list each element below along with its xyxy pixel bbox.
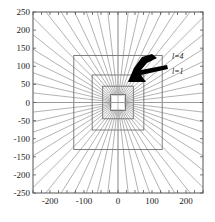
annotation-l4: l=4 (172, 52, 184, 61)
x-tick-label: 0 (116, 196, 121, 206)
chart-canvas: -200-1000100200-250-200-150-100-50050100… (0, 0, 215, 222)
y-tick-label: 50 (21, 79, 31, 89)
y-tick-label: -250 (14, 188, 31, 198)
y-tick-label: 200 (17, 25, 31, 35)
y-tick-label: -100 (14, 134, 31, 144)
x-tick-label: -200 (42, 196, 59, 206)
x-tick-label: 100 (145, 196, 159, 206)
x-tick-label: -100 (76, 196, 93, 206)
y-tick-label: -150 (14, 152, 31, 162)
chart-figure: -200-1000100200-250-200-150-100-50050100… (0, 0, 215, 222)
y-tick-label: 150 (17, 43, 31, 53)
y-tick-label: -50 (18, 116, 30, 126)
y-tick-label: 250 (17, 7, 31, 17)
y-tick-label: -200 (14, 170, 31, 180)
x-tick-label: 200 (179, 196, 193, 206)
annotation-l1: l=1 (172, 67, 184, 76)
y-tick-label: 100 (17, 61, 31, 71)
y-tick-label: 0 (26, 98, 31, 108)
